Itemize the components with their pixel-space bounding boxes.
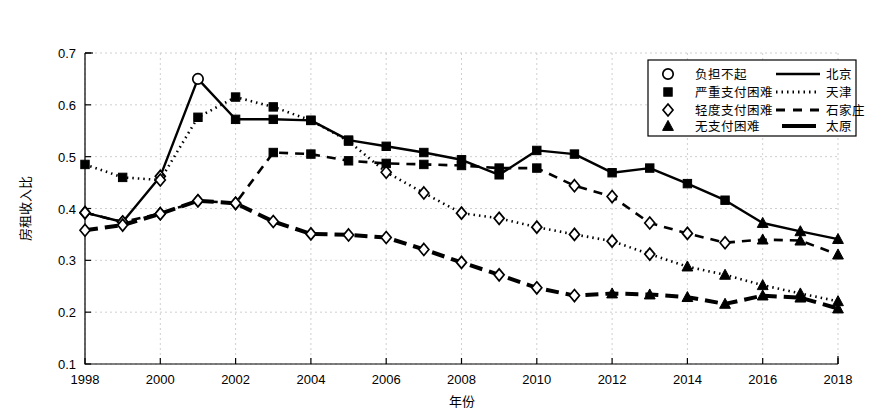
series-point-square-marker [307, 116, 315, 124]
series-point-square-marker [81, 160, 89, 168]
series-point-diamond-marker [381, 232, 391, 244]
legend-line-label: 天津 [826, 85, 852, 100]
series-point-diamond-marker [607, 235, 617, 247]
series-point-square-marker [307, 150, 315, 158]
x-tick-label: 2016 [748, 372, 777, 387]
series-point-triangle-marker [757, 280, 768, 290]
series-point-diamond-marker [645, 217, 655, 229]
x-tick-label: 2010 [522, 372, 551, 387]
x-tick-label: 2014 [673, 372, 702, 387]
series-point-diamond-marker [419, 243, 429, 255]
series-point-diamond-marker [457, 256, 467, 268]
y-tick-label: 0.2 [58, 305, 76, 320]
x-tick-label: 2004 [296, 372, 325, 387]
y-tick-label: 0.4 [58, 202, 76, 217]
legend-marker-label: 无支付困难 [695, 119, 760, 134]
legend-marker-label: 轻度支付困难 [695, 103, 773, 118]
series-point-diamond-marker [607, 191, 617, 203]
series-point-square-marker [570, 150, 578, 158]
series-point-triangle-marker [833, 249, 844, 259]
series-point-diamond-marker [155, 208, 165, 220]
series-point-diamond-marker [306, 228, 316, 240]
series-point-square-marker [533, 146, 541, 154]
series-point-square-marker [344, 137, 352, 145]
x-tick-label: 2008 [447, 372, 476, 387]
series-point-square-marker [382, 142, 390, 150]
series-point-diamond-marker [720, 237, 730, 249]
series-point-diamond-marker [532, 282, 542, 294]
legend-line-label: 北京 [826, 67, 852, 82]
x-axis-label: 年份 [449, 394, 475, 409]
y-tick-label: 0.5 [58, 150, 76, 165]
legend-line-label: 石家庄 [826, 103, 865, 118]
x-tick-label: 2012 [598, 372, 627, 387]
series-point-square-marker [420, 160, 428, 168]
series-point-square-marker [118, 173, 126, 181]
series-point-triangle-marker [757, 217, 768, 227]
series-point-square-marker [457, 161, 465, 169]
y-axis-label: 房租收入比 [18, 176, 33, 241]
series-point-diamond-marker [494, 212, 504, 224]
series-point-square-marker [646, 164, 654, 172]
series-point-diamond-marker [569, 228, 579, 240]
series-point-diamond-marker [682, 227, 692, 239]
legend-marker-label: 严重支付困难 [695, 85, 773, 100]
series-point-diamond-marker [645, 248, 655, 260]
series-point-square-marker [269, 115, 277, 123]
series-point-diamond-marker [569, 290, 579, 302]
series-point-square-marker [495, 164, 503, 172]
x-tick-label: 2000 [146, 372, 175, 387]
series-point-square-marker [194, 113, 202, 121]
x-tick-label: 1998 [71, 372, 100, 387]
chart-legend: 负担不起严重支付困难轻度支付困难无支付困难北京天津石家庄太原 [648, 60, 865, 136]
series-point-square-marker [683, 179, 691, 187]
series-point-square-marker [344, 157, 352, 165]
legend-marker-label: 负担不起 [695, 67, 747, 82]
series-point-square-marker [420, 148, 428, 156]
series-point-diamond-marker [569, 180, 579, 192]
series-point-triangle-marker [682, 261, 693, 271]
series-point-square-marker [721, 196, 729, 204]
series-point-diamond-marker [419, 187, 429, 199]
line-chart-canvas: 0.10.20.30.40.50.60.71998200020022004200… [0, 0, 895, 420]
series-point-diamond-marker [80, 224, 90, 236]
series-point-square-marker [608, 169, 616, 177]
series-point-diamond-marker [532, 221, 542, 233]
series-point-square-marker [382, 159, 390, 167]
legend-line-label: 太原 [826, 119, 852, 134]
series-point-square-marker [231, 115, 239, 123]
legend-marker-square-square-marker [664, 88, 672, 96]
y-tick-label: 0.6 [58, 98, 76, 113]
y-tick-label: 0.7 [58, 46, 76, 61]
x-tick-label: 2018 [824, 372, 853, 387]
x-tick-label: 2002 [221, 372, 250, 387]
y-tick-label: 0.1 [58, 357, 76, 372]
series-point-diamond-marker [193, 195, 203, 207]
series-point-square-marker [231, 93, 239, 101]
series-point-diamond-marker [344, 229, 354, 241]
legend-marker-circle-circle-marker [663, 69, 673, 79]
series-point-square-marker [269, 103, 277, 111]
series-point-circle-marker [193, 74, 203, 84]
series-point-square-marker [533, 164, 541, 172]
chart-figure: 0.10.20.30.40.50.60.71998200020022004200… [0, 0, 895, 420]
series-point-square-marker [269, 148, 277, 156]
series-point-diamond-marker [494, 269, 504, 281]
y-tick-label: 0.3 [58, 253, 76, 268]
series-point-triangle-marker [720, 269, 731, 279]
x-tick-label: 2006 [372, 372, 401, 387]
series-point-diamond-marker [268, 215, 278, 227]
